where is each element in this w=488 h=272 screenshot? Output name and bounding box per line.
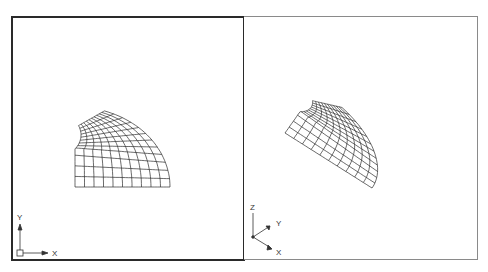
ucs-x-label-3d: X (276, 248, 282, 257)
ucs-z-label: Z (250, 203, 255, 212)
ucs-icon-3d (252, 213, 272, 250)
mesh-surface-isometric[interactable] (285, 101, 378, 188)
drawing-canvas: Y X Z Y X (0, 0, 488, 272)
ucs-x-label: X (52, 249, 58, 258)
ucs-y-label: Y (17, 213, 23, 222)
ucs-icon-2d (17, 224, 48, 256)
ucs-y-label-3d: Y (276, 219, 282, 228)
mesh-surface-plan[interactable] (75, 111, 170, 187)
